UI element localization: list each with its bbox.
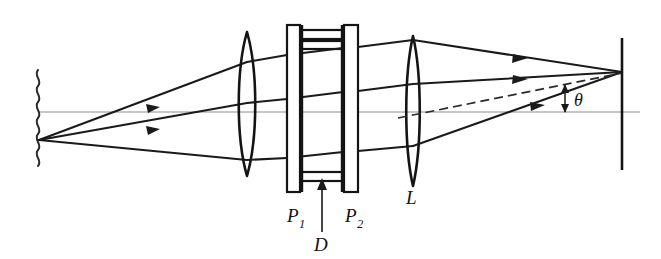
- label-gap-d: D: [313, 234, 328, 255]
- ray-arrowhead: [146, 126, 160, 135]
- label-plate-1: P: [286, 205, 299, 226]
- label-plate-2: P: [344, 205, 357, 226]
- theta-angle-marker: [561, 84, 569, 113]
- label-plate-1-subscript: 1: [299, 217, 305, 231]
- converging-ray-bundle: [413, 40, 622, 146]
- gap-callout: [317, 178, 327, 232]
- optics-figure: P 1 P 2 D L θ: [0, 0, 661, 259]
- ray-arrowhead: [512, 75, 528, 84]
- etalon-plate-1: [287, 25, 302, 192]
- incident-ray-bundle: [39, 62, 247, 160]
- ray-diagram-canvas: P 1 P 2 D L θ: [0, 0, 661, 259]
- label-lens-l: L: [405, 187, 417, 208]
- label-plate-2-subscript: 2: [357, 217, 363, 231]
- label-theta: θ: [574, 90, 583, 110]
- etalon-plate-2: [343, 25, 359, 192]
- ray-arrowhead: [530, 102, 545, 111]
- extended-source: [37, 70, 40, 166]
- transmitted-beam: [358, 40, 413, 151]
- focusing-lens: [406, 36, 420, 186]
- etalon-spacer-top: [300, 30, 343, 49]
